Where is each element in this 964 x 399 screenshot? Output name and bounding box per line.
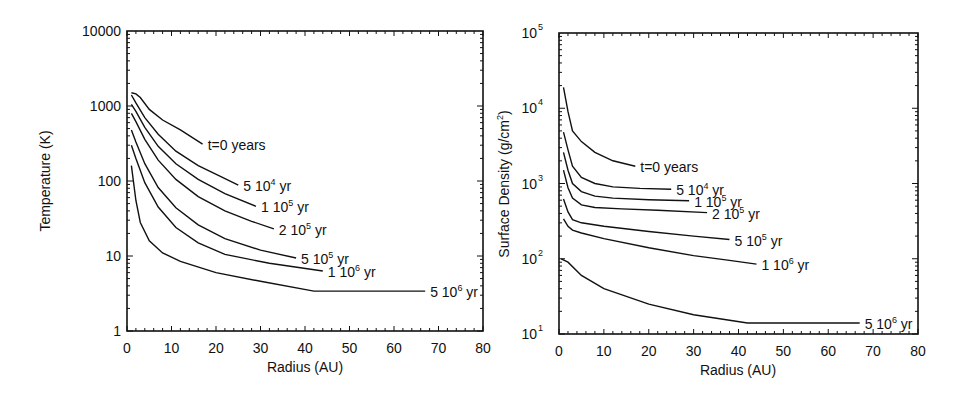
y-tick-label: 10 — [521, 100, 537, 116]
x-tick-label: 80 — [475, 340, 491, 356]
x-tick-label: 70 — [865, 343, 881, 359]
y-tick-label-exponent: 4 — [538, 97, 543, 107]
curve-label: 2 105 yr — [712, 205, 760, 222]
curve-label: 5 104 yr — [243, 177, 291, 194]
curve-label: 1 105 yr — [261, 198, 309, 215]
right-plot-frame — [559, 33, 918, 334]
curve-label: t=0 years — [208, 137, 266, 153]
left-x-tick-labels: 01020304050607080 — [123, 340, 491, 356]
y-tick-label: 10 — [521, 25, 537, 41]
x-tick-label: 60 — [386, 340, 402, 356]
left-y-axis-label: Temperature (K) — [37, 130, 53, 231]
y-tick-label: 1 — [113, 323, 121, 339]
x-tick-label: 50 — [342, 340, 358, 356]
right-y-axis-label: Surface Density (g/cm2) — [495, 110, 512, 257]
y-tick-label-exponent: 1 — [538, 323, 543, 333]
x-tick-label: 20 — [641, 343, 657, 359]
curve-3 — [131, 113, 274, 229]
curve-label: 5 106 yr — [430, 283, 478, 300]
right-y-axis-label-main: Surface Density (g/cm — [496, 120, 512, 258]
y-tick-label: 10 — [521, 251, 537, 267]
curve-0 — [564, 87, 636, 166]
y-tick-label: 10 — [521, 326, 537, 342]
surface-density-chart: 01020304050607080 101102103104105 Radius… — [495, 22, 926, 378]
y-tick-label: 10 — [521, 176, 537, 192]
y-tick-label-exponent: 5 — [538, 22, 543, 32]
right-x-tick-labels: 01020304050607080 — [555, 343, 926, 359]
right-y-axis-label-end: ) — [496, 110, 512, 115]
right-y-tick-labels: 101102103104105 — [521, 22, 543, 342]
x-tick-label: 40 — [731, 343, 747, 359]
y-tick-label: 1000 — [90, 98, 121, 114]
curve-label: 5 106 yr — [865, 315, 913, 332]
curve-6 — [561, 259, 860, 323]
left-y-tick-labels: 110100100010000 — [82, 23, 121, 339]
x-tick-label: 0 — [123, 340, 131, 356]
x-tick-label: 60 — [820, 343, 836, 359]
curve-5 — [564, 219, 757, 264]
y-tick-label-exponent: 2 — [538, 248, 543, 258]
x-tick-label: 20 — [208, 340, 224, 356]
x-tick-label: 0 — [555, 343, 563, 359]
x-tick-label: 10 — [164, 340, 180, 356]
temperature-chart: 01020304050607080 110100100010000 Radius… — [37, 23, 491, 375]
x-tick-label: 80 — [910, 343, 926, 359]
right-x-axis-label: Radius (AU) — [700, 362, 776, 378]
figure: 01020304050607080 110100100010000 Radius… — [0, 0, 964, 399]
curve-0 — [131, 93, 202, 144]
curve-label: 1 106 yr — [328, 263, 376, 280]
x-tick-label: 30 — [686, 343, 702, 359]
y-tick-label: 10 — [105, 248, 121, 264]
curve-label: 5 105 yr — [735, 232, 783, 249]
left-curve-labels: t=0 years5 104 yr1 105 yr2 105 yr5 105 y… — [208, 137, 479, 300]
y-tick-label: 100 — [98, 173, 122, 189]
x-tick-label: 70 — [431, 340, 447, 356]
x-tick-label: 40 — [297, 340, 313, 356]
svg-text:Surface Density (g/cm2): Surface Density (g/cm2) — [495, 110, 512, 257]
right-curve-labels: t=0 years5 104 yr1 105 yr2 105 yr5 105 y… — [640, 159, 913, 332]
curve-label: 2 105 yr — [279, 221, 327, 238]
y-tick-label-exponent: 3 — [538, 173, 543, 183]
x-tick-label: 30 — [253, 340, 269, 356]
x-tick-label: 50 — [776, 343, 792, 359]
right-axis-ticks — [559, 33, 918, 334]
left-x-axis-label: Radius (AU) — [267, 359, 343, 375]
curve-label: 1 106 yr — [761, 256, 809, 273]
x-tick-label: 10 — [596, 343, 612, 359]
curve-label: t=0 years — [640, 159, 698, 175]
y-tick-label: 10000 — [82, 23, 121, 39]
